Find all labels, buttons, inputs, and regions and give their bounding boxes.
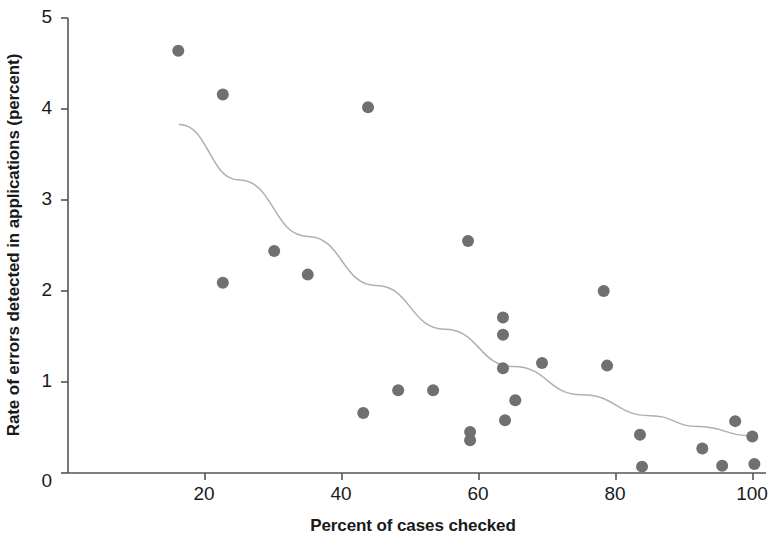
plot-area (0, 0, 769, 550)
data-point (636, 461, 648, 473)
data-point (634, 429, 646, 441)
trendline (179, 124, 751, 435)
data-point (357, 407, 369, 419)
data-point (497, 362, 509, 374)
axes (68, 18, 766, 473)
data-point (217, 277, 229, 289)
data-point (716, 460, 728, 472)
scatter-chart: Rate of errors detected in applications … (0, 0, 769, 550)
data-point (172, 45, 184, 57)
y-axis-ticks (61, 18, 68, 473)
data-point (746, 431, 758, 443)
data-point (497, 329, 509, 341)
data-point (217, 88, 229, 100)
data-point (268, 245, 280, 257)
data-point (509, 394, 521, 406)
data-point (729, 415, 741, 427)
data-points (172, 45, 760, 473)
x-axis-ticks (205, 473, 753, 480)
data-point (362, 101, 374, 113)
data-point (427, 384, 439, 396)
data-point (748, 458, 760, 470)
data-point (302, 269, 314, 281)
data-point (392, 384, 404, 396)
data-point (601, 360, 613, 372)
data-point (464, 434, 476, 446)
data-point (696, 442, 708, 454)
data-point (462, 235, 474, 247)
data-point (598, 285, 610, 297)
data-point (497, 311, 509, 323)
data-point (536, 357, 548, 369)
data-point (499, 414, 511, 426)
